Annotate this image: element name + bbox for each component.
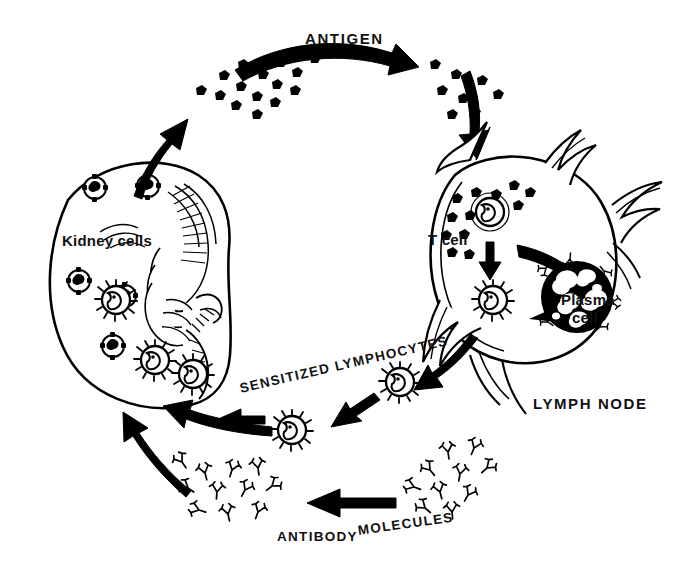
plasma-cell-label-line2: cell [572,310,598,326]
lymph-node-label: LYMPH NODE [533,396,648,412]
sensitized-lymphocyte-transit-1 [379,362,421,403]
antibody-label: ANTIBODY [277,530,358,544]
sensitized-lymphocyte-transit-2 [271,410,313,451]
antigen-particles [196,53,504,119]
kidney-cells-label: Kidney cells [62,233,152,249]
t-cell-label: T cell [428,232,468,248]
diagram-canvas: ANTIGEN Kidney cells T cell Plasma cell … [0,0,681,576]
antigen-label: ANTIGEN [305,31,384,47]
plasma-cell-label-line1: Plasma [561,292,615,308]
t-cell-unsensitized [471,193,509,231]
immune-cycle-illustration [0,0,681,576]
antibody-transport-arrow [307,489,396,517]
antibody-cluster-right [402,436,500,520]
antibody-cluster-left [170,449,285,522]
lymphocyte-travel-arrow-1 [331,393,380,427]
